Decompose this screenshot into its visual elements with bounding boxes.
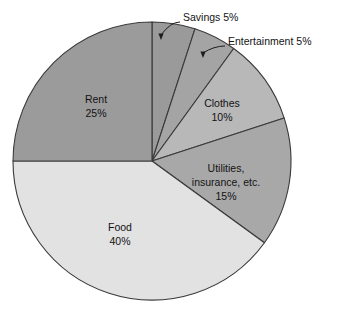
callout-label-entertainment: Entertainment 5% bbox=[228, 35, 311, 47]
slice-label-line: Food bbox=[108, 221, 132, 233]
slice-label-line: 40% bbox=[109, 235, 130, 247]
slice-label-line: 25% bbox=[85, 107, 106, 119]
slice-label-line: insurance, etc. bbox=[192, 176, 260, 188]
callout-label-savings: Savings 5% bbox=[183, 11, 238, 23]
slice-label-line: Clothes bbox=[204, 97, 240, 109]
slice-label-line: 10% bbox=[211, 111, 232, 123]
slice-label-line: 15% bbox=[215, 190, 236, 202]
pie-slices-group bbox=[13, 22, 291, 300]
slice-label-line: Utilities, bbox=[208, 162, 245, 174]
pie-chart-figure: Clothes10%Utilities,insurance, etc.15%Fo… bbox=[0, 0, 341, 315]
pie-slice-rent[interactable] bbox=[13, 22, 152, 161]
slice-label-line: Rent bbox=[85, 93, 107, 105]
pie-chart-svg: Clothes10%Utilities,insurance, etc.15%Fo… bbox=[0, 0, 341, 315]
